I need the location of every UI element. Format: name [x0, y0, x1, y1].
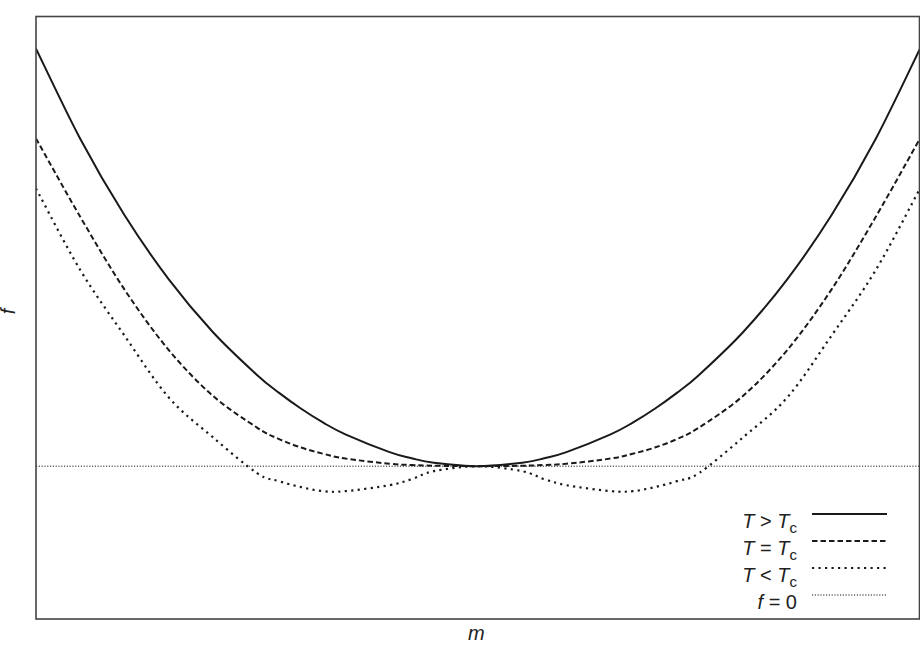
legend-label-lhs: T [742, 564, 754, 586]
legend-label-op: = [754, 537, 777, 559]
legend-lines [812, 514, 887, 595]
curve-t-tc [36, 189, 920, 492]
curves-group [36, 49, 920, 492]
curve-t-tc [36, 49, 920, 467]
legend-label-lhs: T [742, 537, 754, 559]
legend-label-rhs: T [777, 564, 789, 586]
legend-label-lhs: T [742, 510, 754, 532]
legend-item-t-less-tc: T < Tc [742, 562, 797, 588]
legend-label-op: = 0 [763, 591, 797, 613]
legend-item-f-zero: f = 0 [758, 589, 797, 615]
legend-label-sub: c [790, 546, 798, 563]
curve-t-tc [36, 139, 920, 467]
legend-label-rhs: T [777, 537, 789, 559]
legend-label-op: > [754, 510, 777, 532]
legend-item-t-equal-tc: T = Tc [742, 535, 797, 561]
legend-label-sub: c [790, 573, 798, 590]
legend-label-rhs: T [777, 510, 789, 532]
legend-item-t-greater-tc: T > Tc [742, 508, 797, 534]
y-axis-label: f [0, 309, 20, 315]
x-axis-label: m [468, 622, 485, 645]
legend-label-sub: c [790, 519, 798, 536]
legend-label-op: < [754, 564, 777, 586]
